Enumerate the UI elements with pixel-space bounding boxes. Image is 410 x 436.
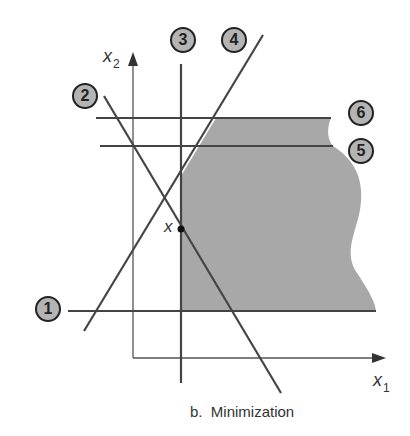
figure-caption: b. Minimization	[190, 403, 294, 420]
minimization-diagram	[0, 0, 410, 436]
x1-axis-label: x1	[373, 370, 389, 391]
x2-axis-label: x2	[103, 46, 119, 67]
constraint-label-6: 6	[348, 100, 374, 126]
constraint-label-5: 5	[348, 138, 374, 164]
x2-axis-arrow-icon	[128, 52, 138, 66]
constraint-label-2: 2	[72, 83, 98, 109]
x1-axis-arrow-icon	[372, 353, 386, 363]
constraint-label-3: 3	[170, 27, 196, 53]
optimal-point-label: x	[164, 217, 173, 237]
constraint-label-1: 1	[35, 296, 61, 322]
optimal-point	[178, 226, 185, 233]
constraint-label-4: 4	[221, 27, 247, 53]
